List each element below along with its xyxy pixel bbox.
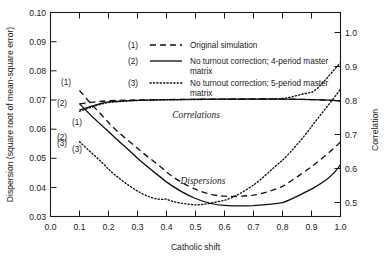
y-tick-label: 0.08	[29, 66, 46, 76]
y2-tick-label: 0.7	[345, 130, 357, 140]
y-tick-label: 0.04	[29, 183, 46, 193]
legend-label-cont: matrix	[190, 89, 212, 98]
dispersion-curves	[80, 89, 341, 206]
x-tick-label: 0.0	[45, 222, 57, 232]
y-axis-left-ticks	[51, 13, 57, 217]
y-tick-label: 0.05	[29, 153, 46, 163]
legend-key: (2)	[128, 57, 138, 66]
y-tick-label: 0.06	[29, 124, 46, 134]
curve-correlation-2	[80, 99, 341, 110]
marker-correlation-1: (1)	[72, 118, 82, 127]
x-tick-label: 0.3	[132, 222, 144, 232]
legend-item-1: (1) Original simulation	[128, 41, 258, 50]
marker-correlation-2: (2)	[57, 133, 67, 142]
y2-tick-label: 0.6	[345, 164, 357, 174]
y-tick-label: 0.03	[29, 212, 46, 222]
legend-key: (3)	[128, 79, 138, 88]
x-axis-top-ticks	[80, 13, 312, 19]
legend-label-cont: matrix	[190, 67, 212, 76]
marker-dispersion-2: (2)	[57, 99, 67, 108]
x-tick-label: 0.2	[103, 222, 115, 232]
legend-item-2: (2) No turnout correction; 4-period mast…	[128, 57, 329, 76]
x-tick-label: 0.5	[190, 222, 202, 232]
legend-key: (1)	[128, 41, 138, 50]
chart-svg: 0.10 0.09 0.08 0.07 0.06 0.05 0.04 0.03 …	[0, 0, 390, 264]
y-axis-left: 0.10 0.09 0.08 0.07 0.06 0.05 0.04 0.03	[29, 8, 56, 222]
y-axis-right: 1.0 0.9 0.8 0.7 0.6 0.5	[335, 28, 358, 208]
x-tick-label: 0.1	[74, 222, 86, 232]
chart-figure: 0.10 0.09 0.08 0.07 0.06 0.05 0.04 0.03 …	[0, 0, 390, 264]
y-axis-title: Dispersion (square root of mean-square e…	[5, 27, 15, 202]
y2-tick-label: 0.9	[345, 62, 357, 72]
y2-tick-label: 0.5	[345, 198, 357, 208]
x-tick-label: 0.4	[161, 222, 173, 232]
y2-tick-label: 0.8	[345, 96, 357, 106]
y-tick-label: 0.07	[29, 95, 46, 105]
x-axis-bottom-ticks	[80, 211, 312, 217]
x-axis-title: Catholic shift	[171, 242, 221, 252]
y2-tick-label: 1.0	[345, 28, 357, 38]
y2-axis-title: Correlation	[370, 109, 380, 151]
annotation-correlations: Correlations	[172, 110, 220, 120]
curve-dispersion-3	[80, 89, 341, 205]
legend: (1) Original simulation (2) No turnout c…	[128, 41, 329, 98]
x-tick-label: 1.0	[335, 222, 347, 232]
y-axis-right-ticks	[335, 33, 341, 203]
marker-dispersion-1: (1)	[61, 78, 71, 87]
y-tick-label: 0.10	[29, 8, 46, 18]
curve-markers: (1) (2) (3) (1) (2) (3)	[57, 78, 82, 154]
legend-label: No turnout correction; 5-period master	[190, 79, 329, 88]
annotation-dispersions: Dispersions	[180, 176, 226, 186]
marker-correlation-3: (3)	[72, 145, 82, 154]
y-tick-label: 0.09	[29, 37, 46, 47]
x-tick-label: 0.9	[306, 222, 318, 232]
x-tick-label: 0.6	[219, 222, 231, 232]
x-tick-label: 0.8	[277, 222, 289, 232]
legend-label: Original simulation	[190, 41, 258, 50]
legend-label: No turnout correction; 4-period master	[190, 57, 329, 66]
x-axis-bottom: 0.0 0.1 0.2 0.3 0.4 0.5 0.6 0.7 0.8 0.9 …	[45, 211, 347, 233]
x-tick-label: 0.7	[248, 222, 260, 232]
